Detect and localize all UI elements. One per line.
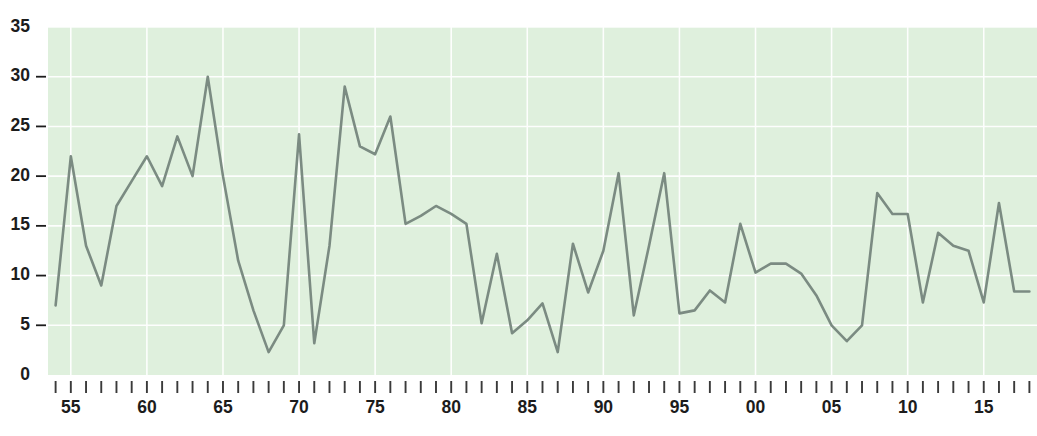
- y-axis-tick-label: 15: [11, 214, 31, 234]
- y-axis-tick-label: 5: [20, 314, 30, 334]
- x-axis-tick-label: 05: [822, 397, 842, 417]
- y-axis-tick-label: 35: [11, 16, 31, 36]
- x-axis-tick-label: 55: [61, 397, 81, 417]
- x-axis-label-group: 55606570758085909500051015: [61, 397, 994, 417]
- x-axis-tick-label: 60: [137, 397, 157, 417]
- x-tick-mark-group: [56, 381, 1030, 393]
- x-axis-tick-label: 00: [746, 397, 766, 417]
- x-axis-tick-label: 95: [670, 397, 690, 417]
- y-axis-tick-label: 10: [11, 264, 31, 284]
- plot-background: [48, 27, 1037, 375]
- y-axis-tick-label: 0: [20, 364, 30, 384]
- x-axis-tick-label: 85: [518, 397, 538, 417]
- x-axis-tick-label: 90: [594, 397, 614, 417]
- y-axis-tick-label: 30: [11, 65, 31, 85]
- x-axis-tick-label: 65: [213, 397, 233, 417]
- y-axis-label-group: 05101520253035: [11, 16, 31, 384]
- x-axis-tick-label: 75: [365, 397, 385, 417]
- chart-svg: 05101520253035 5560657075808590950005101…: [0, 0, 1037, 436]
- line-chart: 05101520253035 5560657075808590950005101…: [0, 0, 1037, 436]
- x-axis-tick-label: 10: [898, 397, 918, 417]
- x-axis-tick-label: 70: [289, 397, 309, 417]
- x-axis-tick-label: 80: [441, 397, 461, 417]
- y-tick-mark-group: [36, 77, 46, 326]
- y-axis-tick-label: 20: [11, 165, 31, 185]
- y-axis-tick-label: 25: [11, 115, 31, 135]
- x-axis-tick-label: 15: [974, 397, 994, 417]
